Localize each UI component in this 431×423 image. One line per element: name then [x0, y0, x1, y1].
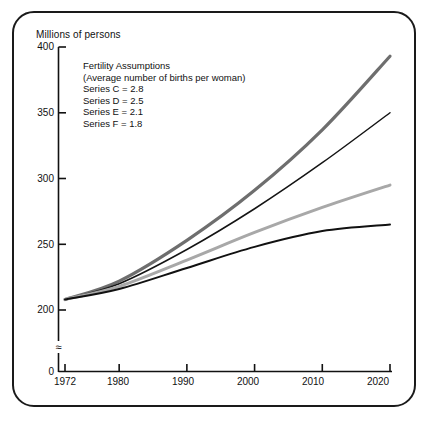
- chart-series-lines: [65, 56, 390, 299]
- chart-plot: ≈: [0, 0, 431, 423]
- series-line-d: [65, 113, 390, 300]
- series-line-c: [65, 56, 390, 299]
- axis-break-symbol: ≈: [55, 341, 61, 353]
- chart-x-ticks: [65, 364, 390, 372]
- chart-axes: ≈: [55, 47, 392, 372]
